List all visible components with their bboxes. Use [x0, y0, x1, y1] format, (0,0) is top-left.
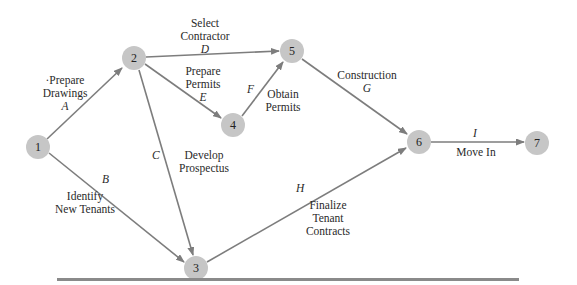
- divider-line: [57, 278, 519, 281]
- node-2: 2: [122, 46, 146, 70]
- activity-h-line2: Tenant: [300, 212, 356, 225]
- label-activity-g: Construction G: [336, 69, 398, 95]
- svg-text:6: 6: [416, 135, 422, 149]
- activity-e-letter: E: [180, 91, 226, 104]
- label-activity-c: Develop Prospectus: [176, 149, 232, 175]
- svg-text:5: 5: [289, 44, 295, 58]
- svg-text:4: 4: [230, 118, 236, 132]
- node-7: 7: [525, 131, 549, 155]
- activity-h-line1: Finalize: [300, 199, 356, 212]
- network-diagram: 1 2 3 4 5 6 7: [0, 0, 577, 285]
- label-activity-e: Prepare Permits E: [180, 65, 226, 104]
- label-activity-b: Identify New Tenants: [50, 190, 120, 216]
- activity-c-line2: Prospectus: [176, 162, 232, 175]
- node-4: 4: [221, 113, 245, 137]
- node-3: 3: [184, 256, 208, 280]
- activity-c-line1: Develop: [176, 149, 232, 162]
- activity-h-line3: Contracts: [300, 225, 356, 238]
- label-activity-d: Select Contractor D: [175, 17, 235, 56]
- activity-i-letter: I: [470, 127, 480, 140]
- activity-d-line1: Select: [175, 17, 235, 30]
- svg-text:7: 7: [534, 136, 540, 150]
- activity-b-line2: New Tenants: [50, 203, 120, 216]
- activity-f-line1: Obtain: [263, 88, 303, 101]
- node-1: 1: [26, 135, 50, 159]
- node-5: 5: [280, 39, 304, 63]
- label-activity-f: Obtain Permits: [263, 88, 303, 114]
- label-activity-a: ·Prepare Drawings A: [40, 74, 90, 113]
- activity-i-line1: Move In: [451, 146, 501, 159]
- activity-f-line2: Permits: [263, 101, 303, 114]
- activity-e-line1: Prepare: [180, 65, 226, 78]
- activity-g-letter: G: [336, 82, 398, 95]
- activity-f-letter: F: [247, 83, 254, 96]
- activity-a-line1: ·Prepare: [40, 74, 90, 87]
- svg-text:3: 3: [193, 261, 199, 275]
- activity-c-letter: C: [152, 149, 160, 162]
- activity-d-letter: D: [175, 43, 235, 56]
- label-activity-h: Finalize Tenant Contracts: [300, 199, 356, 238]
- activity-h-letter: H: [296, 182, 304, 195]
- activity-a-line2: Drawings: [40, 87, 90, 100]
- node-6: 6: [407, 130, 431, 154]
- activity-b-line1: Identify: [50, 190, 120, 203]
- activity-e-line2: Permits: [180, 78, 226, 91]
- activity-g-line1: Construction: [336, 69, 398, 82]
- activity-d-line2: Contractor: [175, 30, 235, 43]
- activity-a-letter: A: [40, 100, 90, 113]
- svg-text:2: 2: [131, 51, 137, 65]
- activity-b-letter: B: [102, 173, 109, 186]
- svg-text:1: 1: [35, 140, 41, 154]
